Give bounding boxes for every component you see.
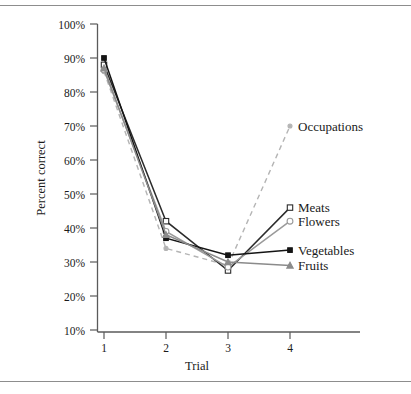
series-label-fruits: Fruits xyxy=(298,258,328,273)
y-tick-label-60: 60% xyxy=(64,155,86,167)
point-vegetables-trial3 xyxy=(226,253,231,258)
data-series-layer xyxy=(101,56,293,273)
y-axis-ticks xyxy=(90,24,98,330)
line-chart-plot: 100% 90% 80% 70% 60% 50% 40% 30% 20% 10%… xyxy=(0,0,411,394)
point-meats-trial4 xyxy=(287,205,292,210)
series-label-flowers: Flowers xyxy=(298,214,340,229)
x-axis-title: Trial xyxy=(185,359,209,373)
y-axis-tick-labels: 100% 90% 80% 70% 60% 50% 40% 30% 20% 10% xyxy=(58,19,85,337)
series-flowers xyxy=(101,67,293,270)
x-tick-label-2: 2 xyxy=(163,342,169,354)
y-axis-title: Percent correct xyxy=(34,140,48,216)
y-tick-label-90: 90% xyxy=(64,53,86,65)
point-meats-trial2 xyxy=(163,219,168,224)
y-tick-label-30: 30% xyxy=(64,257,86,269)
series-occupations xyxy=(102,70,292,268)
y-tick-label-80: 80% xyxy=(64,87,86,99)
point-occupations-trial2 xyxy=(164,246,168,250)
x-tick-label-4: 4 xyxy=(287,342,293,354)
y-tick-label-50: 50% xyxy=(64,189,86,201)
x-tick-label-1: 1 xyxy=(101,342,107,354)
x-axis-tick-labels: 1 2 3 4 xyxy=(101,342,293,354)
series-label-vegetables: Vegetables xyxy=(298,243,354,258)
series-line-flowers xyxy=(104,70,290,267)
series-label-layer: OccupationsMeatsFlowersVegetablesFruits xyxy=(298,119,363,273)
series-label-occupations: Occupations xyxy=(298,119,363,134)
point-flowers-trial4 xyxy=(287,218,293,224)
y-tick-label-20: 20% xyxy=(64,291,86,303)
y-tick-label-10: 10% xyxy=(64,325,86,337)
point-vegetables-trial4 xyxy=(288,248,293,253)
y-tick-label-70: 70% xyxy=(64,121,86,133)
x-tick-label-3: 3 xyxy=(225,342,231,354)
series-line-meats xyxy=(104,65,290,271)
series-line-vegetables xyxy=(104,58,290,255)
point-occupations-trial4 xyxy=(288,124,292,128)
y-tick-label-40: 40% xyxy=(64,223,86,235)
x-axis-ticks xyxy=(104,332,290,339)
series-vegetables xyxy=(102,56,293,258)
point-vegetables-trial1 xyxy=(102,56,107,61)
series-fruits xyxy=(101,65,293,268)
series-meats xyxy=(101,62,292,273)
y-tick-label-100: 100% xyxy=(58,19,85,31)
chart-figure: 100% 90% 80% 70% 60% 50% 40% 30% 20% 10%… xyxy=(0,0,411,394)
axes-group xyxy=(98,24,361,332)
